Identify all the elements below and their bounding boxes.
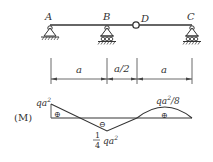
node-label-b: B bbox=[102, 11, 110, 22]
positive-sign-right: ⊕ bbox=[161, 111, 168, 120]
pin-support-a bbox=[41, 26, 59, 40]
moment-diagram-title: (M) bbox=[14, 112, 32, 123]
dimension-label-dc: a bbox=[161, 64, 167, 75]
dimension-label-bd: a/2 bbox=[114, 63, 130, 74]
moment-value-min: 1 4 qa2 bbox=[93, 131, 118, 150]
svg-text:qa2: qa2 bbox=[103, 134, 118, 146]
node-label-d: D bbox=[140, 13, 149, 24]
roller-support-b bbox=[98, 26, 116, 45]
hinge-d bbox=[133, 22, 139, 28]
moment-value-right: qa2/8 bbox=[156, 94, 180, 106]
positive-sign-left: ⊕ bbox=[54, 110, 61, 119]
svg-text:1: 1 bbox=[95, 131, 100, 140]
dimension-label-ab: a bbox=[76, 64, 82, 75]
node-label-c: C bbox=[187, 11, 195, 22]
roller-support-c bbox=[183, 26, 201, 45]
beam-diagram: A B D C bbox=[0, 0, 213, 162]
node-label-a: A bbox=[44, 11, 52, 22]
svg-text:4: 4 bbox=[95, 141, 100, 150]
moment-value-left: qa2 bbox=[36, 96, 51, 108]
negative-sign: ⊖ bbox=[99, 120, 106, 129]
